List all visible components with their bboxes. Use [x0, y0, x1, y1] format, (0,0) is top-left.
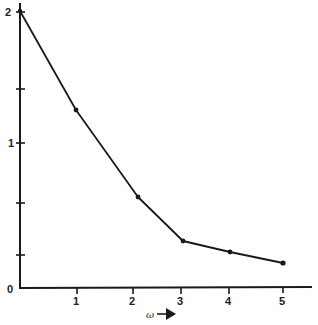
- data-point: [74, 108, 79, 113]
- data-markers: [18, 9, 286, 266]
- x-axis: [19, 287, 312, 288]
- y-tick-label-1: 1: [8, 137, 14, 149]
- y-tick-label-2: 2: [5, 6, 11, 18]
- y-tick-label-0: 0: [7, 283, 13, 295]
- data-line: [20, 11, 283, 263]
- data-point: [228, 250, 233, 255]
- x-tick-label-1: 1: [73, 295, 79, 307]
- x-tick-label-4: 4: [225, 295, 232, 307]
- data-point: [18, 9, 22, 13]
- x-tick-label-3: 3: [177, 295, 183, 307]
- x-axis-label: ω: [146, 309, 154, 320]
- data-point: [136, 195, 141, 200]
- data-point: [181, 239, 186, 244]
- line-chart: 2 1 0 1 2 3 4 5 ω: [0, 0, 318, 325]
- x-tick-label-2: 2: [129, 295, 135, 307]
- right-arrow-icon: [157, 308, 176, 320]
- x-tick-label-5: 5: [279, 295, 285, 307]
- data-point: [280, 260, 285, 265]
